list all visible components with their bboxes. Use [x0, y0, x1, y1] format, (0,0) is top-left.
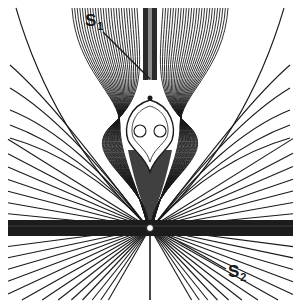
- horizontal-band: [8, 220, 293, 236]
- label-s1: S1: [85, 12, 103, 29]
- label-s2: S2: [228, 263, 246, 280]
- field-line-diagram: [0, 0, 300, 307]
